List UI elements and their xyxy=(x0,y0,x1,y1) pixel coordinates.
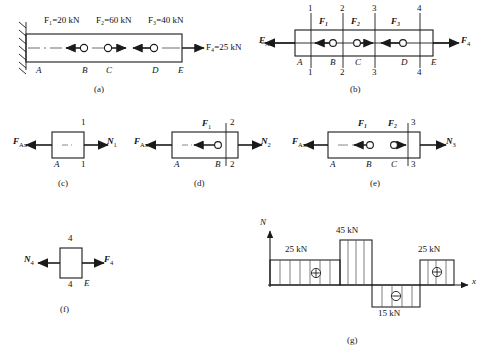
node-c xyxy=(354,40,361,47)
reaction-label-fax: FAx xyxy=(259,36,273,47)
station-label-b: B xyxy=(330,58,336,67)
section-top-label: 3 xyxy=(411,118,416,127)
force-label-f4: F₄=25 kN xyxy=(206,43,241,52)
internal-force-label-n2: N2 xyxy=(261,137,271,148)
panel-f: 4 4 N4 F4 E (f) xyxy=(18,222,198,322)
node-d xyxy=(150,44,157,51)
section-bottom-label: 4 xyxy=(68,280,73,289)
force-label-f4: F4 xyxy=(461,36,470,47)
node-b xyxy=(367,142,374,149)
reaction-label-fax: FAx xyxy=(134,137,148,148)
bar-segment-de xyxy=(420,260,454,285)
station-label-a: A xyxy=(174,160,180,169)
panel-b-drawing xyxy=(245,0,487,85)
bar-segment-ab xyxy=(270,260,340,285)
caption-f: (f) xyxy=(60,304,69,314)
internal-force-label-n3: N3 xyxy=(446,137,456,148)
force-label-f3: F₃ xyxy=(391,17,400,26)
caption-g: (g) xyxy=(347,335,358,345)
station-label-b: B xyxy=(366,160,372,169)
panel-e: F₁ F₂ 3 3 FAx N3 A B C (e) xyxy=(292,108,487,196)
station-label-a: A xyxy=(36,66,42,75)
station-label-a: A xyxy=(54,160,60,169)
value-label-bc: 45 kN xyxy=(336,226,358,235)
station-label-b: B xyxy=(82,66,88,75)
value-label-de: 25 kN xyxy=(418,245,440,254)
bar-segment-cd xyxy=(372,285,420,307)
node-b xyxy=(330,40,337,47)
section-top-label: 1 xyxy=(81,118,86,127)
node-c xyxy=(104,44,111,51)
section-top-label-2: 2 xyxy=(340,4,345,13)
axial-force-diagram-drawing xyxy=(232,215,487,335)
value-label-cd: 15 kN xyxy=(378,309,400,318)
reaction-label-fax: FAx xyxy=(292,137,306,148)
station-label-d: D xyxy=(152,66,159,75)
station-label-e: E xyxy=(84,279,90,288)
internal-force-label-n1: N1 xyxy=(107,137,117,148)
y-axis-label: N xyxy=(260,218,266,227)
section-top-label-3: 3 xyxy=(372,4,377,13)
section-top-label: 2 xyxy=(230,118,235,127)
section-bottom-label-1: 1 xyxy=(308,68,313,77)
section-top-label: 4 xyxy=(68,234,73,243)
station-label-d: D xyxy=(401,58,408,67)
internal-force-label-n4: N4 xyxy=(24,255,34,266)
section-top-label-1: 1 xyxy=(308,4,313,13)
station-label-b: B xyxy=(215,160,221,169)
x-axis-label: x xyxy=(472,277,476,286)
panel-a: F₁=20 kN F₂=60 kN F₃=40 kN F₄=25 kN A B … xyxy=(0,0,240,100)
caption-a: (a) xyxy=(94,84,104,94)
section-top-label-4: 4 xyxy=(417,4,422,13)
value-label-ab: 25 kN xyxy=(285,245,307,254)
station-label-a: A xyxy=(297,58,303,67)
station-label-c: C xyxy=(355,58,361,67)
fixed-support-hatching xyxy=(19,22,26,74)
panel-d: F1 2 2 FAx N2 A B (d) xyxy=(132,108,292,196)
force-label-f2: F₂=60 kN xyxy=(96,16,131,25)
section-bottom-label: 2 xyxy=(230,160,235,169)
caption-b: (b) xyxy=(350,84,361,94)
force-label-f3: F₃=40 kN xyxy=(148,16,183,25)
reaction-label-fax: FAx xyxy=(13,137,27,148)
panel-c: 1 1 FAx N1 A (c) xyxy=(0,108,135,196)
section-bottom-label-4: 4 xyxy=(417,68,422,77)
section-bottom-label-2: 2 xyxy=(340,68,345,77)
force-label-f2: F₂ xyxy=(388,119,397,128)
caption-d: (d) xyxy=(194,178,205,188)
force-label-f1: F₁ xyxy=(319,17,328,26)
panel-g: N x 25 kN 45 kN 15 kN 25 kN (g) xyxy=(232,215,487,353)
force-label-f1: F₁=20 kN xyxy=(44,16,79,25)
node-c xyxy=(391,142,398,149)
section-bottom-label: 3 xyxy=(411,160,416,169)
caption-e: (e) xyxy=(370,178,380,188)
force-label-f4: F4 xyxy=(104,255,113,266)
station-label-a: A xyxy=(330,160,336,169)
force-label-f1: F1 xyxy=(202,119,211,130)
station-label-c: C xyxy=(106,66,112,75)
station-label-c: C xyxy=(391,160,397,169)
station-label-e: E xyxy=(178,66,184,75)
bar-segment-bc xyxy=(340,240,372,285)
node-b xyxy=(215,142,222,149)
segment-outline xyxy=(60,248,82,278)
node-b xyxy=(80,44,87,51)
section-bottom-label: 1 xyxy=(81,160,86,169)
node-d xyxy=(400,40,407,47)
force-label-f2: F₂ xyxy=(351,17,360,26)
station-label-e: E xyxy=(431,58,437,67)
panel-b: 1 2 3 4 1 2 3 4 F₁ F₂ F₃ FAx F4 A B C D … xyxy=(245,0,487,100)
section-bottom-label-3: 3 xyxy=(372,68,377,77)
force-label-f1: F₁ xyxy=(358,119,367,128)
caption-c: (c) xyxy=(58,178,68,188)
